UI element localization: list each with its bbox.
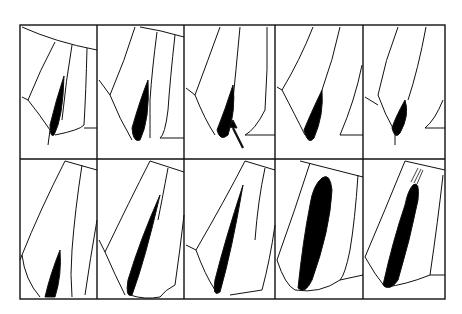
panel-r1c1 bbox=[22, 27, 97, 145]
panel-r1c4 bbox=[277, 27, 363, 141]
panel-r2c4 bbox=[277, 161, 363, 291]
panel-r2c1 bbox=[20, 161, 97, 297]
panel-r2c2 bbox=[99, 161, 184, 298]
panel-r2c5 bbox=[365, 161, 445, 288]
figure-canvas bbox=[0, 0, 462, 314]
hatch-marks bbox=[411, 168, 423, 184]
panel-r1c3 bbox=[186, 27, 275, 148]
panel-r1c2 bbox=[99, 27, 184, 141]
figure-frame bbox=[20, 25, 445, 299]
panel-r1c5 bbox=[365, 27, 445, 145]
panel-r2c3 bbox=[186, 161, 275, 295]
